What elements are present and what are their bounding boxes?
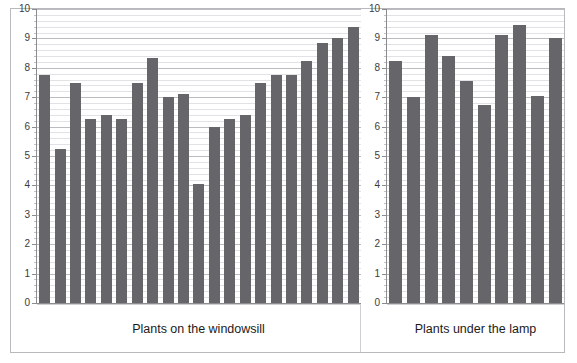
y-tick-minor	[384, 150, 386, 151]
bar	[317, 43, 328, 303]
y-tick-minor	[384, 221, 386, 222]
bar	[147, 58, 158, 304]
y-tick-mark	[32, 244, 36, 245]
y-tick-mark	[382, 244, 386, 245]
y-tick-mark	[382, 127, 386, 128]
y-tick-label: 6	[374, 122, 380, 132]
y-tick-label: 7	[374, 92, 380, 102]
y-tick-minor	[34, 150, 36, 151]
y-tick-label: 10	[369, 4, 380, 14]
y-tick-minor	[34, 21, 36, 22]
bar	[209, 127, 220, 304]
y-tick-minor	[384, 56, 386, 57]
bar	[332, 38, 343, 303]
y-tick-minor	[34, 203, 36, 204]
bar	[178, 94, 189, 303]
y-tick-mark	[32, 9, 36, 10]
y-tick-label: 7	[24, 92, 30, 102]
y-tick-minor	[34, 232, 36, 233]
y-tick-mark	[382, 215, 386, 216]
x-axis-left-line	[37, 303, 361, 304]
y-tick-label: 3	[24, 210, 30, 220]
y-tick-mark	[32, 127, 36, 128]
y-tick-minor	[34, 91, 36, 92]
panel-windowsill: 012345678910 Plants on the windowsill	[11, 9, 361, 352]
bar	[495, 35, 508, 303]
y-tick-minor	[34, 85, 36, 86]
y-tick-minor	[34, 27, 36, 28]
y-tick-minor	[384, 203, 386, 204]
bar	[39, 75, 50, 303]
y-tick-minor	[34, 103, 36, 104]
y-tick-minor	[34, 15, 36, 16]
y-tick-minor	[384, 103, 386, 104]
y-tick-minor	[384, 180, 386, 181]
y-tick-label: 0	[24, 298, 30, 308]
bar	[271, 75, 282, 303]
bar	[55, 149, 66, 303]
y-tick-minor	[384, 291, 386, 292]
y-tick-mark	[32, 97, 36, 98]
bar	[407, 97, 420, 303]
y-tick-minor	[34, 33, 36, 34]
y-tick-minor	[34, 279, 36, 280]
y-tick-minor	[384, 91, 386, 92]
bar	[301, 61, 312, 304]
bar	[132, 83, 143, 304]
y-tick-label: 9	[374, 33, 380, 43]
y-tick-label: 5	[24, 151, 30, 161]
y-tick-label: 3	[374, 210, 380, 220]
y-tick-minor	[34, 80, 36, 81]
y-tick-minor	[384, 62, 386, 63]
y-tick-mark	[382, 156, 386, 157]
y-tick-minor	[34, 227, 36, 228]
y-tick-minor	[34, 50, 36, 51]
y-tick-minor	[34, 144, 36, 145]
y-tick-label: 10	[19, 4, 30, 14]
y-tick-mark	[382, 68, 386, 69]
bar	[531, 96, 544, 303]
panel-caption-lamp: Plants under the lamp	[387, 304, 564, 352]
bar	[425, 35, 438, 303]
y-tick-label: 4	[24, 180, 30, 190]
y-tick-minor	[384, 209, 386, 210]
y-tick-minor	[384, 27, 386, 28]
y-tick-minor	[34, 138, 36, 139]
y-tick-label: 8	[24, 63, 30, 73]
y-tick-minor	[34, 256, 36, 257]
panel-container: 012345678910 Plants on the windowsill 01…	[11, 9, 564, 352]
bar	[513, 25, 526, 303]
y-tick-minor	[384, 121, 386, 122]
y-tick-mark	[32, 215, 36, 216]
y-tick-minor	[34, 209, 36, 210]
y-tick-minor	[384, 197, 386, 198]
y-tick-minor	[384, 174, 386, 175]
y-tick-minor	[384, 15, 386, 16]
y-tick-mark	[32, 274, 36, 275]
y-tick-label: 6	[24, 122, 30, 132]
y-tick-mark	[32, 303, 36, 304]
y-tick-minor	[384, 162, 386, 163]
y-tick-minor	[384, 132, 386, 133]
y-tick-label: 9	[24, 33, 30, 43]
bar	[255, 83, 266, 304]
y-tick-minor	[384, 262, 386, 263]
plot-area-lamp	[387, 9, 564, 304]
bar	[70, 83, 81, 304]
panel-lamp-plotrow: 012345678910	[361, 9, 564, 304]
y-tick-mark	[32, 185, 36, 186]
y-tick-minor	[34, 191, 36, 192]
y-tick-minor	[34, 109, 36, 110]
bar	[85, 119, 96, 303]
y-tick-minor	[34, 174, 36, 175]
y-tick-minor	[34, 197, 36, 198]
bar	[163, 97, 174, 303]
y-tick-label: 2	[24, 239, 30, 249]
bar	[549, 38, 562, 303]
y-tick-minor	[34, 56, 36, 57]
chart-screenshot: 012345678910 Plants on the windowsill 01…	[0, 0, 577, 363]
y-tick-minor	[384, 191, 386, 192]
bar	[348, 27, 359, 304]
y-tick-minor	[384, 74, 386, 75]
y-tick-minor	[34, 268, 36, 269]
